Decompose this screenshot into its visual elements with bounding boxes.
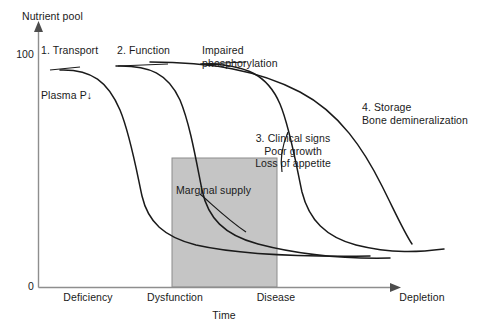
annotation-stage2-function: 2. Function bbox=[117, 44, 170, 57]
x-tick-depletion: Depletion bbox=[399, 291, 444, 304]
y-axis-title: Nutrient pool bbox=[22, 10, 83, 23]
y-tick-100: 100 bbox=[16, 48, 34, 61]
x-tick-disease: Disease bbox=[257, 291, 296, 304]
annotation-stage4-storage: 4. Storage Bone demineralization bbox=[362, 101, 468, 126]
marginal-supply-band bbox=[172, 158, 277, 287]
y-tick-0: 0 bbox=[28, 280, 34, 293]
annotation-marginal-supply: Marginal supply bbox=[176, 184, 251, 197]
annotation-stage1-detail-plasma: Plasma P↓ bbox=[41, 89, 92, 102]
leader-line-stage2 bbox=[118, 64, 168, 66]
x-tick-dysfunction: Dysfunction bbox=[147, 291, 203, 304]
x-axis-title: Time bbox=[212, 309, 235, 322]
annotation-stage3-clinical-signs: 3. Clinical signs Poor growth Loss of ap… bbox=[255, 132, 331, 170]
annotation-stage2-detail-phosphorylation: Impaired phosphorylation bbox=[202, 44, 278, 69]
nutrient-depletion-figure: Nutrient pool 100 0 1. Transport Plasma … bbox=[0, 0, 482, 332]
x-tick-deficiency: Deficiency bbox=[63, 291, 112, 304]
y-axis-arrowhead bbox=[34, 21, 43, 32]
annotation-stage1-transport: 1. Transport bbox=[41, 44, 98, 57]
